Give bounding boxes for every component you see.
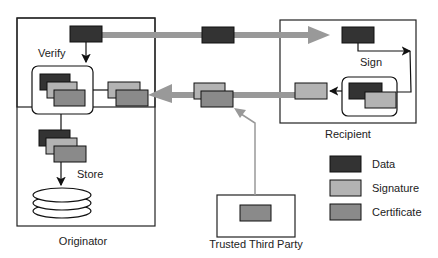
ttp-certificate-block bbox=[240, 205, 271, 221]
received-certificate-block bbox=[116, 90, 148, 106]
verify-label: Verify bbox=[38, 47, 66, 59]
signature-flow-diagram: Verify Store Originator Sign Recipient T… bbox=[0, 0, 438, 258]
originator-data-block bbox=[70, 26, 102, 42]
verify-certificate-block bbox=[54, 90, 85, 106]
sign-arrow bbox=[358, 43, 410, 51]
recipient-signature-block bbox=[295, 83, 327, 99]
ttp-arrow bbox=[234, 108, 255, 195]
legend-swatch-data bbox=[330, 156, 361, 172]
legend-swatch-certificate bbox=[330, 204, 361, 220]
legend: Data Signature Certificate bbox=[330, 156, 422, 220]
storage-database-icon bbox=[33, 188, 91, 218]
legend-label-signature: Signature bbox=[372, 182, 419, 194]
stored-certificate-block bbox=[54, 146, 86, 162]
transit-certificate-block bbox=[201, 91, 233, 107]
recipient-data-block bbox=[342, 27, 374, 43]
sign-signature-block bbox=[365, 92, 396, 108]
legend-label-data: Data bbox=[372, 158, 396, 170]
recipient-label: Recipient bbox=[325, 128, 371, 140]
legend-swatch-signature bbox=[330, 180, 361, 196]
ttp-label: Trusted Third Party bbox=[209, 238, 303, 250]
originator-label: Originator bbox=[59, 235, 108, 247]
sign-label: Sign bbox=[360, 56, 382, 68]
store-label: Store bbox=[77, 168, 103, 180]
transit-data-block bbox=[202, 27, 234, 43]
legend-label-certificate: Certificate bbox=[372, 206, 422, 218]
